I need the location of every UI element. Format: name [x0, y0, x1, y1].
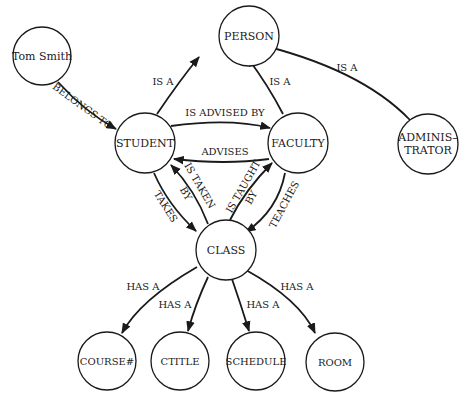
label-is-advised-by: IS ADVISED BY [185, 107, 265, 118]
node-course-num: COURSE# [78, 332, 136, 390]
semantic-network-diagram: BELONGS TO IS A IS A IS A IS ADVISED BY … [0, 0, 470, 406]
label-has-course-num: HAS A [126, 281, 160, 292]
node-room: ROOM [306, 333, 364, 391]
node-course-num-label: COURSE# [80, 356, 134, 367]
label-admin-is-a: IS A [336, 62, 358, 73]
edge-is-advised-by [171, 122, 270, 128]
node-administrator-label-line1: ADMINIS– [397, 131, 458, 144]
node-person-label: PERSON [224, 30, 274, 43]
node-room-label: ROOM [318, 357, 352, 368]
label-belongs-to: BELONGS TO [51, 81, 115, 132]
node-administrator: ADMINIS– TRATOR [397, 114, 458, 174]
node-tom-smith: Tom Smith [12, 27, 72, 85]
node-schedule: SCHEDULE [226, 332, 287, 390]
label-has-room: HAS A [280, 281, 314, 292]
label-is-taken-by: BY [178, 185, 195, 203]
node-person: PERSON [219, 6, 279, 66]
node-class: CLASS [196, 220, 256, 280]
node-faculty: FACULTY [268, 113, 328, 173]
node-student-label: STUDENT [116, 137, 175, 150]
label-faculty-is-a: IS A [269, 76, 291, 87]
node-student: STUDENT [115, 113, 175, 173]
node-ctitle: CTITLE [151, 332, 209, 390]
label-advises: ADVISES [200, 146, 248, 157]
label-has-ctitle: HAS A [158, 299, 192, 310]
node-administrator-label-line2: TRATOR [404, 144, 452, 157]
node-tom-smith-label: Tom Smith [12, 50, 72, 63]
label-has-schedule: HAS A [246, 299, 280, 310]
node-schedule-label: SCHEDULE [226, 356, 287, 367]
edges [58, 43, 410, 333]
label-is-taught: IS TAUGHT [224, 158, 263, 215]
node-class-label: CLASS [207, 244, 246, 257]
label-student-is-a: IS A [152, 76, 174, 87]
edge-labels: BELONGS TO IS A IS A IS A IS ADVISED BY … [51, 62, 359, 310]
node-faculty-label: FACULTY [271, 137, 325, 150]
node-ctitle-label: CTITLE [161, 356, 200, 367]
